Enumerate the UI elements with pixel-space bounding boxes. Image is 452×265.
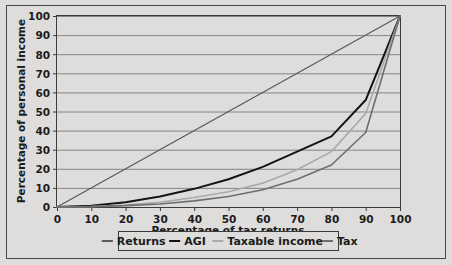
x-tick-label-0: 0 xyxy=(54,213,61,225)
x-tick-label-80: 80 xyxy=(325,213,340,225)
x-tick-label-20: 20 xyxy=(119,213,134,225)
chart-legend: ReturnsAGITaxable incomeTax xyxy=(102,232,358,251)
chart-figure: 0102030405060708090100 01020304050607080… xyxy=(0,0,452,265)
y-tick-label-100: 100 xyxy=(28,10,50,22)
legend-label-agi: AGI xyxy=(184,235,206,248)
x-tick-label-100: 100 xyxy=(390,213,412,225)
y-tick-label-10: 10 xyxy=(35,182,50,194)
lorenz-curve-chart: 0102030405060708090100 01020304050607080… xyxy=(0,0,452,265)
legend-label-returns: Returns xyxy=(117,235,166,248)
y-tick-label-0: 0 xyxy=(43,201,50,213)
legend-label-tax: Tax xyxy=(337,235,358,248)
y-tick-label-80: 80 xyxy=(35,49,50,61)
y-tick-label-50: 50 xyxy=(35,106,50,118)
y-tick-label-60: 60 xyxy=(35,87,50,99)
y-tick-label-90: 90 xyxy=(35,29,50,41)
y-tick-label-70: 70 xyxy=(35,68,50,80)
y-axis-title: Percentage of personal income xyxy=(15,19,27,203)
y-tick-label-30: 30 xyxy=(35,144,50,156)
x-tick-label-10: 10 xyxy=(84,213,99,225)
legend-label-taxable-income: Taxable income xyxy=(227,235,323,248)
legend-items: ReturnsAGITaxable incomeTax xyxy=(102,235,358,248)
x-tick-label-90: 90 xyxy=(359,213,374,225)
y-axis-tick-labels: 0102030405060708090100 xyxy=(28,10,50,213)
y-tick-label-40: 40 xyxy=(35,125,50,137)
y-tick-label-20: 20 xyxy=(35,163,50,175)
